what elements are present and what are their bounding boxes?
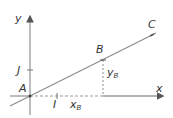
- point-a-label: A: [18, 82, 27, 95]
- y-axis-label: y: [14, 12, 22, 25]
- point-c-marker: [150, 34, 154, 36]
- x-axis-label: x: [155, 82, 163, 95]
- point-i-label: I: [53, 98, 56, 111]
- point-a-marker: [29, 95, 32, 98]
- xb-sub: B: [77, 104, 82, 112]
- xb-label: xB: [69, 98, 82, 112]
- yb-label: yB: [106, 66, 119, 80]
- point-j-label: J: [15, 64, 20, 77]
- yb-sub: B: [114, 72, 119, 80]
- coordinate-diagram: y x J A I B C xB yB: [0, 0, 173, 118]
- point-c-label: C: [148, 18, 156, 31]
- point-b-label: B: [96, 43, 104, 56]
